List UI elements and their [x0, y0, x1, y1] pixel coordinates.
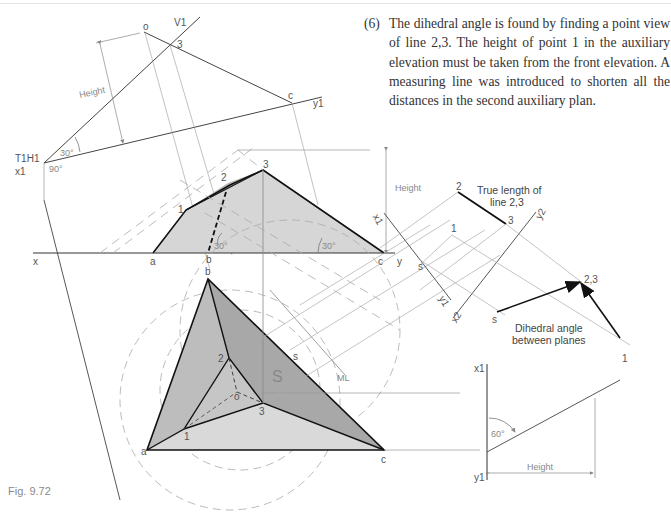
label-S-plane: S — [272, 368, 283, 385]
label-1-elev: 1 — [178, 204, 184, 215]
plan-view — [120, 220, 500, 510]
true-length-note-1: True length of — [477, 184, 541, 196]
label-30deg-left: 30° — [214, 241, 228, 251]
label-y1-2aux: y1 — [437, 294, 452, 309]
label-measuring-line: ML — [337, 373, 350, 383]
label-y-elev: y — [397, 256, 402, 267]
label-x1-2aux: x1 — [371, 212, 386, 227]
label-3-elev: 3 — [263, 159, 269, 170]
label-b-plan: b — [205, 266, 211, 277]
label-t1h1: T1H1 — [15, 153, 40, 164]
label-v1: V1 — [174, 17, 187, 28]
label-23-point: 2,3 — [584, 274, 598, 285]
label-s-plan: s — [293, 351, 298, 362]
label-1-point: 1 — [622, 353, 628, 364]
label-height-side: Height — [527, 462, 554, 472]
label-3-plan: 3 — [259, 406, 265, 417]
label-s-2aux: s — [418, 261, 423, 272]
label-s-point: s — [492, 314, 497, 325]
label-2-2aux: 2 — [456, 181, 462, 192]
label-2-elev: 2 — [221, 172, 227, 183]
label-1-plan: 1 — [184, 431, 190, 442]
label-3-2aux: 3 — [508, 215, 514, 226]
label-3-aux: 3 — [177, 39, 183, 50]
label-y1-aux: y1 — [313, 98, 324, 109]
label-o-plan: o — [234, 391, 240, 402]
label-x2: x2 — [449, 309, 464, 324]
label-a-elev: a — [150, 256, 156, 267]
label-y1-side: y1 — [474, 472, 485, 483]
label-c-aux: c — [288, 90, 293, 101]
label-c-elev: c — [378, 256, 383, 267]
label-c-plan: c — [381, 454, 386, 465]
label-height-aux: Height — [78, 85, 106, 100]
label-o: o — [143, 21, 149, 32]
true-length-note-2: line 2,3 — [490, 196, 524, 208]
side-view — [487, 364, 620, 480]
label-90deg: 90° — [49, 164, 63, 174]
label-b-elev: b — [206, 254, 212, 265]
label-30deg-right: 30° — [322, 241, 336, 251]
label-y2: y2 — [533, 206, 548, 221]
label-x1-aux: x1 — [15, 166, 26, 177]
figure-caption: Fig. 9.72 — [8, 485, 51, 497]
label-1-2aux: 1 — [451, 223, 457, 234]
technical-drawing: o V1 3 c y1 Height 30° T1H1 x1 90° x a b… — [0, 0, 671, 518]
label-2-plan: 2 — [218, 353, 224, 364]
label-x1-side: x1 — [474, 363, 485, 374]
label-a-plan: a — [141, 446, 147, 457]
label-height-elev: Height — [395, 183, 422, 193]
label-60deg: 60° — [491, 429, 505, 439]
label-x: x — [33, 256, 38, 267]
dihedral-note-1: Dihedral angle — [515, 322, 583, 334]
label-30deg: 30° — [60, 148, 74, 158]
dihedral-note-2: between planes — [512, 334, 586, 346]
